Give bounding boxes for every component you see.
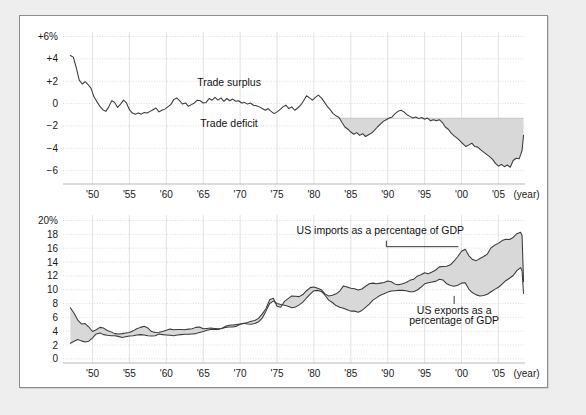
series-line [70,232,523,343]
x-axis-unit-label: (year) [513,189,539,200]
y-axis-tick-label: 8 [52,298,58,309]
x-axis-tick-label: '75 [271,368,284,379]
import-export-gap-shading [70,232,523,343]
trade-balance-chart: +6%+4+20−2−4−6'50'55'60'65'70'75'80'85'9… [38,31,540,200]
x-axis-tick-label: '55 [123,368,136,379]
x-axis-tick-label: '90 [381,368,394,379]
x-axis-tick-label: '70 [234,189,247,200]
y-axis-tick-label: −2 [47,120,59,131]
x-axis-tick-label: '80 [307,189,320,200]
series-line [70,55,523,167]
x-axis-tick-label: '60 [160,189,173,200]
x-axis-tick-label: '50 [86,189,99,200]
x-axis-tick-label: '00 [455,189,468,200]
y-axis-tick-label: 0 [52,98,58,109]
y-axis-tick-label: 14 [47,257,59,268]
x-axis-tick-label: '95 [418,368,431,379]
y-axis-tick-label: +6% [38,31,58,42]
x-axis-tick-label: '50 [86,368,99,379]
chart-annotation: Trade deficit [200,117,257,129]
x-axis-tick-label: '65 [197,368,210,379]
trade-charts-svg: +6%+4+20−2−4−6'50'55'60'65'70'75'80'85'9… [20,16,547,387]
x-axis-unit-label: (year) [513,368,539,379]
x-axis-tick-label: '80 [307,368,320,379]
y-axis-tick-label: +2 [47,76,59,87]
chart-annotation: US imports as a percentage of GDP [297,224,465,236]
x-axis-tick-label: '85 [344,368,357,379]
x-axis-tick-label: '75 [271,189,284,200]
annotation-leader-line [386,241,458,247]
x-axis-tick-label: '00 [455,368,468,379]
y-axis-tick-label: 16 [47,243,59,254]
y-axis-tick-label: 2 [52,340,58,351]
y-axis-tick-label: 20% [38,215,58,226]
x-axis-tick-label: '05 [492,189,505,200]
y-axis-tick-label: 4 [52,326,58,337]
y-axis-tick-label: +4 [47,53,59,64]
y-axis-tick-label: 0 [52,353,58,364]
chart-annotation: percentage of GDP [409,314,499,326]
imports-exports-chart: 20%181614121086420'50'55'60'65'70'75'80'… [38,215,540,379]
x-axis-tick-label: '65 [197,189,210,200]
x-axis-tick-label: '55 [123,189,136,200]
x-axis-tick-label: '90 [381,189,394,200]
y-axis-tick-label: 18 [47,229,59,240]
x-axis-tick-label: '95 [418,189,431,200]
x-axis-tick-label: '85 [344,189,357,200]
y-axis-tick-label: −6 [47,165,59,176]
trade-figure-panel: +6%+4+20−2−4−6'50'55'60'65'70'75'80'85'9… [19,15,548,388]
x-axis-tick-label: '70 [234,368,247,379]
x-axis-tick-label: '05 [492,368,505,379]
y-axis-tick-label: 10 [47,284,59,295]
x-axis-tick-label: '60 [160,368,173,379]
y-axis-tick-label: −4 [47,143,59,154]
deficit-shading [330,118,523,167]
chart-annotation: Trade surplus [197,76,261,88]
y-axis-tick-label: 12 [47,270,59,281]
y-axis-tick-label: 6 [52,312,58,323]
